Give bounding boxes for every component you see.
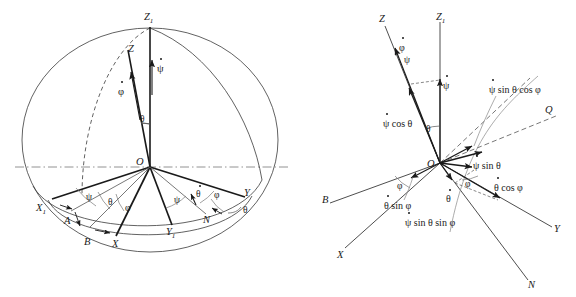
svg-text:ψ: ψ	[443, 80, 450, 91]
vec-theta-dot-right	[440, 163, 452, 180]
great-circle-body	[150, 28, 262, 180]
label-y1-left: Y1	[166, 226, 175, 240]
label-n-right: N	[527, 279, 536, 290]
label-b-left: B	[84, 236, 91, 247]
panel-right-components: Z Z1 Q B X Y N O φ ψ ψ cos θ ψ sin θ ψ s…	[322, 11, 561, 290]
arc-arrow-n	[212, 208, 222, 214]
label-y-right: Y	[554, 223, 561, 234]
label-x-right: X	[336, 249, 344, 260]
phi-dot-label-left: φ	[118, 81, 124, 97]
label-n-left: N	[202, 214, 211, 225]
label-z-right: Z	[379, 13, 385, 24]
label-z1-right: Z1	[436, 11, 445, 25]
great-circle-front-lower	[48, 196, 252, 235]
angle-theta-right-arc	[211, 199, 224, 212]
label-psi-sin-theta-sin-phi: ψ sin θ sin φ	[405, 212, 455, 228]
angle-theta-top-label: θ	[140, 114, 145, 124]
ray-y1	[150, 167, 172, 225]
arc-arrow-x1	[60, 205, 72, 209]
angle-phi-right-label: φ	[214, 190, 220, 200]
svg-text:θ cos φ: θ cos φ	[494, 182, 523, 193]
svg-text:ψ sin θ sin φ: ψ sin θ sin φ	[405, 217, 455, 228]
psi-dot-label-left: ψ	[157, 58, 164, 74]
vec-psi-sin-theta-cos-phi	[440, 146, 472, 163]
axis-z-line	[128, 50, 150, 167]
label-theta-dot-sin-phi: θ sin φ	[384, 195, 411, 211]
svg-text:θ: θ	[196, 189, 201, 199]
label-z-left: Z	[128, 43, 134, 54]
label-x1-left: X1	[35, 202, 46, 216]
label-q-right: Q	[545, 104, 553, 115]
angle-phi-right-arc	[200, 191, 214, 203]
angle-theta-right-panel-label: θ	[426, 124, 431, 134]
label-origin-left: O	[136, 156, 144, 167]
svg-text:ψ cos θ: ψ cos θ	[383, 118, 413, 129]
svg-text:ψ: ψ	[157, 63, 164, 74]
svg-text:φ: φ	[118, 86, 124, 97]
angle-theta-left-label: θ	[108, 197, 113, 207]
axis-q-right	[440, 116, 556, 163]
label-theta-dot-right: θ	[446, 189, 451, 204]
label-psi-cos-theta: ψ cos θ	[383, 113, 413, 129]
label-x-left: X	[111, 238, 119, 249]
label-phi-dot-right: φ	[399, 37, 405, 53]
axis-b-right	[330, 163, 440, 203]
label-psi-sin-theta-cos-phi: ψ sin θ cos φ	[489, 79, 541, 95]
angle-phi-left-panel-label: φ	[397, 181, 403, 191]
svg-text:ψ sin θ cos φ: ψ sin θ cos φ	[489, 84, 541, 95]
parallelogram-dash-top	[411, 80, 440, 84]
svg-text:θ: θ	[446, 193, 451, 204]
angle-psi-left-label: ψ	[86, 192, 92, 202]
label-theta-dot-cos-phi: θ cos φ	[494, 177, 523, 193]
svg-text:θ sin φ: θ sin φ	[384, 200, 411, 211]
angle-psi-right-label: ψ	[174, 195, 180, 205]
figure-canvas: Z1 Z X1 X Y1 Y A B N O ψ φ θ θ ψ θ φ	[0, 0, 576, 297]
panel-left-sphere: Z1 Z X1 X Y1 Y A B N O ψ φ θ θ ψ θ φ	[15, 11, 288, 252]
label-b-right: B	[322, 194, 329, 205]
label-psi-sin-theta: ψ sin θ	[473, 155, 501, 171]
angle-phi-right-panel-label: φ	[465, 179, 471, 189]
label-y-left: Y	[244, 187, 251, 198]
vec-psi-cos-theta	[409, 88, 440, 163]
label-a-left: A	[63, 215, 71, 226]
euler-angle-figure: Z1 Z X1 X Y1 Y A B N O ψ φ θ θ ψ θ φ	[0, 0, 576, 297]
svg-text:φ: φ	[399, 42, 405, 53]
arc-arrow-a	[75, 212, 80, 226]
angle-theta-right-leader	[228, 207, 241, 213]
label-z1-left: Z1	[144, 11, 153, 25]
phi-dot-arrow-left	[131, 72, 140, 120]
label-psi-dot-right: ψ	[443, 75, 450, 91]
leader-psi-sin-theta-cos-phi	[474, 96, 496, 146]
theta-dot-label-left: θ	[196, 185, 201, 199]
angle-theta-right-label: θ	[243, 205, 248, 215]
label-origin-right: O	[427, 158, 435, 169]
angle-psi-right-panel-label: ψ	[404, 55, 410, 65]
angle-phi-left-label: φ	[125, 203, 131, 213]
svg-text:ψ sin θ: ψ sin θ	[473, 160, 501, 171]
